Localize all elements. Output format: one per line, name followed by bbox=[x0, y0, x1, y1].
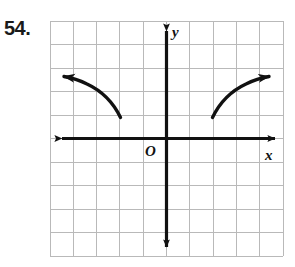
figure-root: 54. bbox=[0, 0, 295, 267]
coordinate-graph: y x O bbox=[0, 0, 295, 267]
origin-label: O bbox=[145, 143, 156, 159]
y-axis-label: y bbox=[170, 24, 179, 40]
x-axis-label: x bbox=[264, 147, 273, 163]
